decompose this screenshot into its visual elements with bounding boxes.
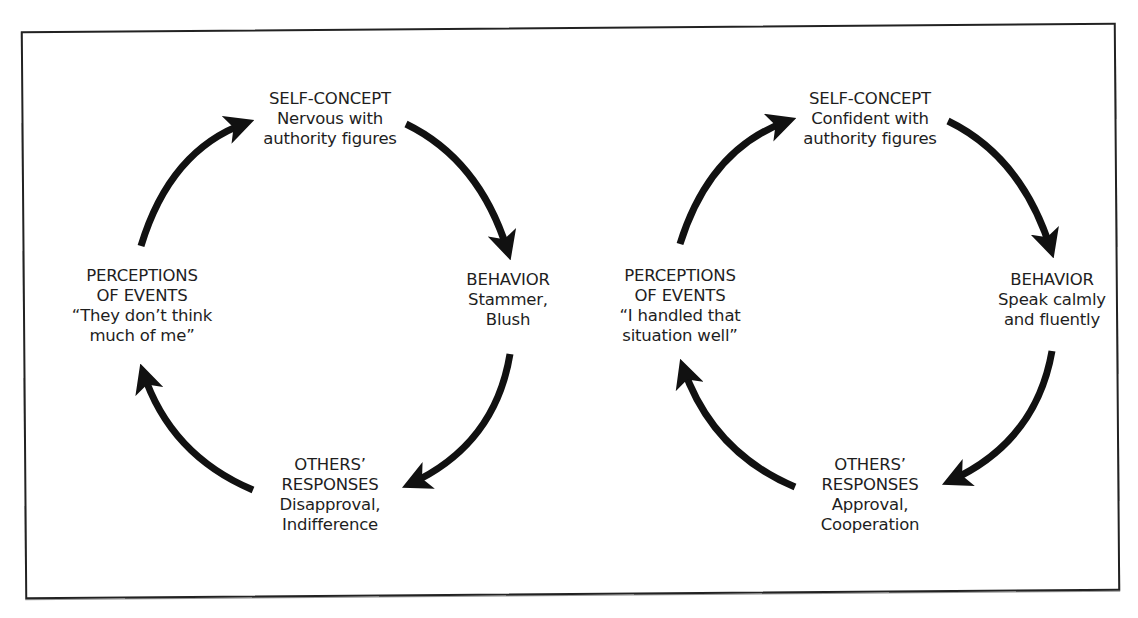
node-detail: Cooperation — [810, 515, 930, 535]
node-heading: PERCEPTIONS — [42, 266, 242, 286]
node-heading: OF EVENTS — [590, 286, 770, 306]
node-self-concept-negative: SELF-CONCEPT Nervous with authority figu… — [255, 89, 405, 149]
arrow-behavior-to-responses — [950, 351, 1052, 481]
node-behavior-positive: BEHAVIOR Speak calmly and fluently — [987, 270, 1117, 330]
node-heading: SELF-CONCEPT — [795, 89, 945, 109]
node-detail: authority figures — [795, 129, 945, 149]
node-heading: OTHERS’ — [810, 455, 930, 475]
arrow-responses-to-perceptions — [683, 367, 795, 487]
node-perceptions-positive: PERCEPTIONS OF EVENTS “I handled that si… — [590, 266, 770, 346]
arrow-responses-to-perceptions — [143, 372, 253, 490]
arrow-selfconcept-to-behavior — [406, 124, 508, 252]
node-detail: and fluently — [987, 310, 1117, 330]
node-detail: Stammer, — [448, 290, 568, 310]
node-heading: OTHERS’ — [270, 455, 390, 475]
node-heading: RESPONSES — [270, 475, 390, 495]
node-perceptions-negative: PERCEPTIONS OF EVENTS “They don’t think … — [42, 266, 242, 346]
node-heading: RESPONSES — [810, 475, 930, 495]
arrow-perceptions-to-selfconcept — [141, 123, 246, 246]
node-self-concept-positive: SELF-CONCEPT Confident with authority fi… — [795, 89, 945, 149]
node-detail: “They don’t think — [42, 306, 242, 326]
node-detail: Approval, — [810, 495, 930, 515]
arrow-behavior-to-responses — [410, 354, 510, 484]
node-detail: much of me” — [42, 326, 242, 346]
node-heading: SELF-CONCEPT — [255, 89, 405, 109]
arrow-perceptions-to-selfconcept — [680, 121, 788, 244]
node-heading: BEHAVIOR — [987, 270, 1117, 290]
node-detail: Speak calmly — [987, 290, 1117, 310]
node-others-responses-positive: OTHERS’ RESPONSES Approval, Cooperation — [810, 455, 930, 535]
node-detail: Confident with — [795, 109, 945, 129]
node-others-responses-negative: OTHERS’ RESPONSES Disapproval, Indiffere… — [270, 455, 390, 535]
node-detail: situation well” — [590, 326, 770, 346]
node-detail: Blush — [448, 310, 568, 330]
node-detail: Disapproval, — [270, 495, 390, 515]
node-detail: “I handled that — [590, 306, 770, 326]
node-detail: Indifference — [270, 515, 390, 535]
node-heading: BEHAVIOR — [448, 270, 568, 290]
node-detail: authority figures — [255, 129, 405, 149]
node-behavior-negative: BEHAVIOR Stammer, Blush — [448, 270, 568, 330]
node-heading: PERCEPTIONS — [590, 266, 770, 286]
node-detail: Nervous with — [255, 109, 405, 129]
node-heading: OF EVENTS — [42, 286, 242, 306]
arrow-selfconcept-to-behavior — [948, 121, 1051, 250]
